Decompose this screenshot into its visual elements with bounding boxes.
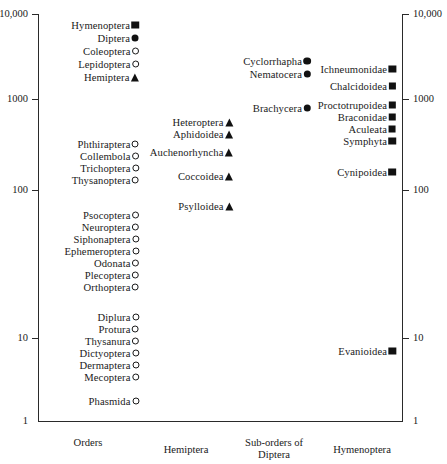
data-point[interactable]: Aculeata	[349, 124, 396, 135]
data-point-label: Evanioidea	[338, 346, 387, 357]
data-point[interactable]: Coleoptera	[83, 46, 139, 57]
data-point[interactable]: Thysanoptera	[72, 175, 139, 186]
data-point-label: Cyclorrhapha	[243, 56, 302, 67]
data-point-label: Diplura	[97, 312, 130, 323]
data-point[interactable]: Dermaptera	[80, 360, 140, 371]
data-point-label: Aphidoidea	[173, 129, 223, 140]
marker-circle-open-icon	[132, 177, 139, 184]
data-point-label: Hemiptera	[84, 72, 130, 83]
data-point-label: Coleoptera	[83, 46, 130, 57]
data-point[interactable]: Cyclorrhapha	[243, 56, 311, 67]
marker-circle-open-icon	[132, 61, 139, 68]
marker-square-filled-icon	[389, 82, 397, 90]
y-tick-label-right-10000: 10,000	[413, 9, 447, 19]
data-point-label: Lepidoptera	[78, 59, 130, 70]
data-point[interactable]: Phthiraptera	[78, 139, 139, 150]
marker-triangle-filled-icon	[225, 119, 233, 127]
data-point-label: Hymenoptera	[71, 20, 130, 31]
data-point[interactable]: Nematocera	[250, 69, 311, 80]
data-point[interactable]: Plecoptera	[85, 270, 139, 281]
y-tick-label-right-10: 10	[413, 333, 447, 343]
marker-triangle-filled-icon	[225, 173, 233, 181]
x-category-hemiptera: Hemiptera	[164, 444, 209, 456]
data-point-label: Dermaptera	[80, 360, 131, 371]
data-point[interactable]: Diptera	[98, 33, 139, 44]
data-point[interactable]: Evanioidea	[338, 346, 396, 357]
data-point[interactable]: Psylloidea	[178, 201, 233, 212]
data-point[interactable]: Collembola	[80, 151, 139, 162]
marker-circle-open-icon	[132, 236, 139, 243]
data-point[interactable]: Thysanura	[85, 336, 139, 347]
data-point-label: Thysanoptera	[72, 175, 131, 186]
data-point[interactable]: Chalcidoidea	[330, 81, 396, 92]
data-point-label: Collembola	[80, 151, 130, 162]
data-point-label: Orthoptera	[84, 282, 131, 293]
y-axis-left	[38, 14, 39, 422]
marker-square-filled-icon	[389, 137, 397, 145]
data-point[interactable]: Hymenoptera	[71, 20, 139, 31]
data-point-label: Plecoptera	[85, 270, 131, 281]
data-point[interactable]: Heteroptera	[172, 117, 233, 128]
marker-triangle-filled-icon	[225, 149, 233, 157]
marker-circle-open-icon	[132, 224, 139, 231]
data-point[interactable]: Diplura	[97, 312, 139, 323]
data-point[interactable]: Cynipoidea	[337, 167, 396, 178]
data-point[interactable]: Protura	[99, 324, 139, 335]
marker-square-filled-icon	[389, 113, 397, 121]
data-point[interactable]: Proctotrupoidea	[318, 100, 396, 111]
marker-circle-open-icon	[132, 153, 139, 160]
y-axis-right	[402, 14, 403, 422]
marker-triangle-filled-icon	[225, 131, 233, 139]
y-tick-label-right-1: 1	[413, 416, 447, 426]
marker-circle-open-icon	[132, 248, 139, 255]
data-point[interactable]: Lepidoptera	[78, 59, 139, 70]
data-point[interactable]: Auchenorhyncha	[150, 147, 233, 158]
marker-circle-filled-icon	[304, 70, 312, 78]
data-point[interactable]: Dictyoptera	[79, 348, 139, 359]
marker-circle-filled-icon	[304, 104, 312, 112]
data-point-label: Cynipoidea	[337, 167, 387, 178]
marker-circle-open-icon	[132, 338, 139, 345]
data-point[interactable]: Odonata	[94, 258, 139, 269]
data-point[interactable]: Ichneumonidae	[320, 64, 396, 75]
data-point-label: Ichneumonidae	[320, 64, 387, 75]
data-point[interactable]: Symphyta	[343, 136, 396, 147]
data-point[interactable]: Ephemeroptera	[64, 246, 139, 257]
y-tick-label-left-1: 1	[0, 416, 28, 426]
data-point[interactable]: Coccoidea	[178, 171, 233, 182]
data-point-label: Braconidae	[338, 112, 387, 123]
data-point-label: Phthiraptera	[78, 139, 131, 150]
data-point[interactable]: Neuroptera	[82, 222, 139, 233]
data-point[interactable]: Brachycera	[253, 103, 311, 114]
data-point-label: Odonata	[94, 258, 131, 269]
data-point[interactable]: Trichoptera	[80, 163, 139, 174]
data-point[interactable]: Siphonaptera	[73, 234, 139, 245]
data-point[interactable]: Psocoptera	[83, 210, 139, 221]
data-point-label: Proctotrupoidea	[318, 100, 387, 111]
data-point[interactable]: Phasmida	[89, 396, 140, 407]
marker-circle-open-icon	[132, 326, 139, 333]
y-tick-right-1000	[403, 99, 409, 100]
y-tick-left-10	[32, 338, 38, 339]
marker-circle-open-icon	[132, 260, 139, 267]
y-tick-label-left-1000: 1000	[0, 94, 28, 104]
marker-square-filled-icon	[389, 347, 397, 355]
marker-circle-open-icon	[132, 314, 139, 321]
data-point[interactable]: Orthoptera	[84, 282, 139, 293]
data-point-label: Symphyta	[343, 136, 387, 147]
data-point-label: Trichoptera	[80, 163, 130, 174]
x-category-hymenoptera: Hymenoptera	[333, 444, 391, 456]
data-point-label: Aculeata	[349, 124, 387, 135]
data-point[interactable]: Mecoptera	[84, 372, 139, 383]
data-point[interactable]: Aphidoidea	[173, 129, 233, 140]
marker-circle-open-icon	[132, 212, 139, 219]
marker-triangle-filled-icon	[225, 203, 233, 211]
data-point[interactable]: Hemiptera	[84, 72, 139, 83]
data-point[interactable]: Braconidae	[338, 112, 396, 123]
data-point-label: Psylloidea	[178, 201, 223, 212]
marker-circle-open-icon	[132, 350, 139, 357]
marker-circle-filled-icon	[304, 57, 312, 65]
y-tick-left-100	[32, 190, 38, 191]
data-point-label: Nematocera	[250, 69, 302, 80]
